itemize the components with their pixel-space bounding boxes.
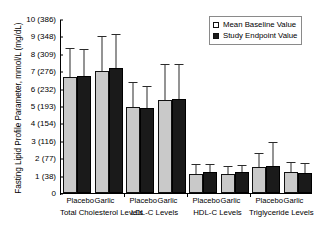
error-bar <box>272 143 273 166</box>
y-tick-label: 1 (38) <box>35 173 60 181</box>
error-bar-cap <box>174 64 183 65</box>
error-bar-cap <box>142 86 151 87</box>
legend-item-endpoint: Study Endpoint Value <box>213 30 297 41</box>
error-bar <box>209 165 210 172</box>
bars-layer <box>61 20 312 193</box>
x-group-label: PlaceboGarlicTotal Cholesterol Levels <box>60 197 123 216</box>
error-bar-cap <box>254 153 263 154</box>
error-bar-cap <box>268 142 277 143</box>
error-bar <box>101 37 102 71</box>
bar <box>158 100 172 193</box>
x-group-label: PlaceboGarlicTriglyceride Levels <box>249 197 312 216</box>
y-tick-label: 2 (77) <box>35 155 60 163</box>
legend-item-baseline: Mean Baseline Value <box>213 19 297 30</box>
error-bar-cap <box>205 164 214 165</box>
x-group-name: HDL-C Levels <box>186 209 249 217</box>
error-bar-cap <box>191 164 200 165</box>
x-subgroup-label: Placebo <box>130 197 154 205</box>
legend-swatch-endpoint-icon <box>213 33 219 39</box>
error-bar <box>132 83 133 106</box>
error-bar-cap <box>97 36 106 37</box>
bar <box>203 172 217 193</box>
y-tick-label: 7 (276) <box>31 68 60 76</box>
x-subgroup-row: PlaceboGarlic <box>123 197 186 205</box>
x-group-label: PlaceboGarlicHDL-C Levels <box>186 197 249 216</box>
bar <box>189 174 203 193</box>
error-bar <box>115 35 116 68</box>
error-bar <box>83 50 84 76</box>
x-group-name: LDL-C Levels <box>123 209 186 217</box>
x-group-label: PlaceboGarlicLDL-C Levels <box>123 197 186 216</box>
y-tick-label: 4 (154) <box>31 120 60 128</box>
error-bar-cap <box>79 49 88 50</box>
error-bar <box>195 165 196 174</box>
chart-legend: Mean Baseline Value Study Endpoint Value <box>209 16 302 45</box>
x-subgroup-label: Placebo <box>193 197 217 205</box>
bar <box>95 71 109 193</box>
bar-group <box>250 20 313 193</box>
y-tick-mark <box>60 194 63 195</box>
bar <box>172 99 186 193</box>
error-bar <box>227 167 228 174</box>
bar <box>298 173 312 193</box>
x-group-name: Total Cholesterol Levels <box>60 209 123 217</box>
error-bar <box>146 87 147 108</box>
legend-swatch-baseline-icon <box>213 22 219 28</box>
x-subgroup-label: Garlic <box>156 197 180 205</box>
error-bar <box>290 163 291 172</box>
error-bar <box>258 154 259 167</box>
x-group-name: Triglyceride Levels <box>249 209 312 217</box>
error-bar-cap <box>128 82 137 83</box>
bar <box>63 77 77 193</box>
error-bar-cap <box>160 64 169 65</box>
error-bar <box>241 166 242 173</box>
error-bar-cap <box>111 34 120 35</box>
error-bar-cap <box>237 165 246 166</box>
y-axis-title: Fasting Lipid Profile Parameter, mmol/L … <box>15 15 23 201</box>
bar-group <box>187 20 250 193</box>
error-bar-cap <box>286 162 295 163</box>
bar-group <box>61 20 124 193</box>
x-subgroup-row: PlaceboGarlic <box>60 197 123 205</box>
x-subgroup-label: Garlic <box>282 197 306 205</box>
chart-figure: Fasting Lipid Profile Parameter, mmol/L … <box>0 0 320 234</box>
x-axis-labels: PlaceboGarlicTotal Cholesterol LevelsPla… <box>60 197 312 231</box>
bar <box>235 172 249 193</box>
bar <box>126 107 140 193</box>
legend-label-baseline: Mean Baseline Value <box>223 19 296 30</box>
bar <box>140 108 154 193</box>
x-subgroup-label: Garlic <box>93 197 117 205</box>
y-tick-label: 10 (386) <box>26 16 60 24</box>
y-tick-label: 0 <box>52 190 60 198</box>
error-bar <box>304 164 305 173</box>
bar <box>77 76 91 193</box>
y-tick-label: 6 (232) <box>31 86 60 94</box>
error-bar <box>69 49 70 78</box>
plot-area: 01 (38)2 (77)3 (116)4 (154)5 (193)6 (232… <box>60 20 312 194</box>
x-subgroup-label: Garlic <box>219 197 243 205</box>
x-subgroup-row: PlaceboGarlic <box>186 197 249 205</box>
x-subgroup-label: Placebo <box>67 197 91 205</box>
error-bar <box>178 65 179 99</box>
x-axis-line <box>60 193 312 194</box>
bar <box>284 172 298 193</box>
y-tick-label: 8 (309) <box>31 51 60 59</box>
y-tick-label: 9 (348) <box>31 33 60 41</box>
bar <box>252 167 266 193</box>
error-bar <box>164 65 165 100</box>
bar-group <box>124 20 187 193</box>
y-tick-label: 3 (116) <box>31 138 60 146</box>
y-tick-label: 5 (193) <box>31 103 60 111</box>
error-bar-cap <box>65 48 74 49</box>
legend-label-endpoint: Study Endpoint Value <box>223 30 297 41</box>
bar <box>221 174 235 193</box>
bar <box>109 68 123 193</box>
x-subgroup-row: PlaceboGarlic <box>249 197 312 205</box>
bar <box>266 166 280 193</box>
error-bar-cap <box>223 166 232 167</box>
error-bar-cap <box>300 163 309 164</box>
x-subgroup-label: Placebo <box>256 197 280 205</box>
